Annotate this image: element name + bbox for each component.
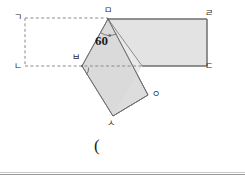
angle-value: 60 — [95, 33, 108, 48]
page-rule-lower — [0, 174, 245, 175]
vertex-label-ieung: ㅇ — [152, 90, 160, 99]
page-rule-upper — [0, 172, 245, 173]
vertex-label-digeut: ㄷ — [205, 62, 213, 71]
degree-symbol: ° — [108, 33, 111, 42]
vertex-label-gieuk: ㄱ — [14, 13, 22, 22]
vertex-dot-b — [81, 65, 83, 67]
vertex-label-siot: ㅅ — [107, 119, 115, 128]
vertex-label-bieup: ㅂ — [72, 53, 80, 62]
answer-open-paren: ( — [94, 137, 100, 154]
figure-page: ㄱ ㄴ ㄷ ㄹ ㅁ ㅂ ㅅ ㅇ 60° ( — [0, 0, 245, 180]
geometry-diagram — [0, 0, 245, 180]
vertex-dot-m — [107, 18, 109, 20]
angle-measure-label: 60° — [95, 34, 111, 47]
vertex-label-mieum: ㅁ — [104, 6, 112, 15]
vertex-label-rieul: ㄹ — [205, 9, 213, 18]
vertex-label-nieun: ㄴ — [14, 62, 22, 71]
